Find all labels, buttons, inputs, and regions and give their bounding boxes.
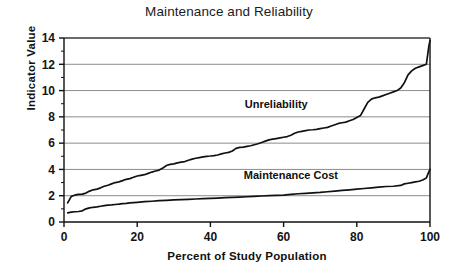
chart-figure: Maintenance and Reliability Indicator Va… [0,0,458,274]
axis-frame [64,38,430,222]
y-tick-label: 12 [42,58,56,72]
y-tick-label: 6 [48,136,55,150]
x-tick-label: 20 [131,230,145,244]
data-series [68,41,430,213]
x-axis-ticks: 020406080100 [61,222,441,244]
x-tick-label: 60 [277,230,291,244]
x-tick-label: 80 [350,230,364,244]
x-tick-label: 100 [420,230,440,244]
y-tick-label: 4 [48,163,55,177]
y-tick-label: 0 [48,215,55,229]
annotation-unreliability: Unreliability [245,98,309,110]
y-tick-label: 8 [48,110,55,124]
y-tick-label: 2 [48,189,55,203]
plot-area: 02468101214 020406080100 UnreliabilityMa… [0,0,458,274]
series-annotations: UnreliabilityMaintenance Cost [244,98,338,181]
x-tick-label: 40 [204,230,218,244]
y-tick-label: 10 [42,84,56,98]
y-tick-label: 14 [42,31,56,45]
annotation-maintenance-cost: Maintenance Cost [244,169,338,181]
x-tick-label: 0 [61,230,68,244]
y-axis-ticks: 02468101214 [42,31,64,229]
